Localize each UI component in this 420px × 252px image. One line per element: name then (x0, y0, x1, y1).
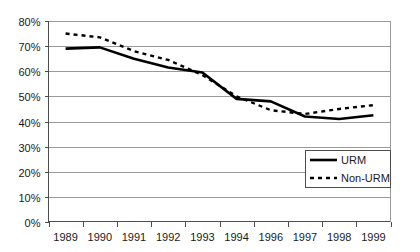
chart-canvas: 0%10%20%30%40%50%60%70%80% 1989199019911… (0, 0, 420, 252)
y-axis-tick-labels: 0%10%20%30%40%50%60%70%80% (18, 16, 40, 229)
x-axis-tick-label: 1990 (88, 231, 112, 243)
x-axis-tick-label: 1993 (190, 231, 214, 243)
y-axis-tick-label: 30% (18, 142, 40, 154)
line-chart: 0%10%20%30%40%50%60%70%80% 1989199019911… (0, 0, 420, 252)
chart-legend: URM Non-URM (306, 151, 391, 188)
legend-label-non-urm: Non-URM (341, 172, 390, 184)
y-axis-tick-label: 0% (25, 217, 41, 229)
x-axis-tick-label: 1996 (259, 231, 283, 243)
x-axis-tick-label: 1998 (327, 231, 351, 243)
legend-label-urm: URM (341, 154, 366, 166)
y-axis-tick-label: 10% (18, 192, 40, 204)
x-axis-tick-label: 1991 (122, 231, 146, 243)
x-axis-tick-label: 1992 (156, 231, 180, 243)
y-axis-tick-label: 80% (18, 16, 40, 28)
y-axis-tick-label: 70% (18, 41, 40, 53)
y-axis-tick-label: 50% (18, 91, 40, 103)
y-axis-tick-label: 40% (18, 117, 40, 129)
x-axis-tick-label: 1999 (361, 231, 385, 243)
y-axis-tick-label: 60% (18, 66, 40, 78)
chart-background (0, 0, 420, 252)
x-axis-tick-label: 1997 (293, 231, 317, 243)
x-axis-tick-label: 1994 (224, 231, 248, 243)
x-axis-tick-label: 1989 (53, 231, 77, 243)
y-axis-tick-label: 20% (18, 167, 40, 179)
